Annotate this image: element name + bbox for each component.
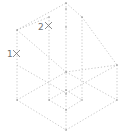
vertex-markers <box>16 2 118 131</box>
isometric-wireframe: 1 2 <box>0 0 132 136</box>
point-2-marker: 2 <box>38 22 52 32</box>
point-1-marker: 1 <box>7 49 20 59</box>
point-2-label: 2 <box>38 22 44 32</box>
point-1-label: 1 <box>7 49 13 59</box>
